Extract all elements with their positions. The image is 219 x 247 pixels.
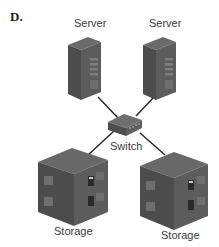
server-right-icon	[143, 37, 176, 100]
network-diagram	[0, 0, 219, 247]
storage-right-label: Storage	[161, 229, 200, 241]
storage-right-icon	[140, 152, 208, 230]
storage-left-label: Storage	[54, 225, 93, 237]
server-right-label: Server	[149, 17, 181, 29]
switch-label: Switch	[110, 140, 142, 152]
server-left-icon	[68, 37, 101, 100]
server-left-label: Server	[74, 17, 106, 29]
storage-left-icon	[38, 148, 108, 226]
